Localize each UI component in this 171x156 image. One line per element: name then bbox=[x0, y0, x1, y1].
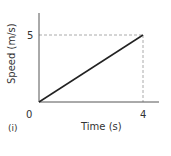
x-tick-label: 4 bbox=[140, 110, 146, 120]
x-axis-label: Time (s) bbox=[81, 122, 122, 132]
speed-line bbox=[39, 35, 143, 102]
panel-label: (i) bbox=[8, 124, 18, 133]
origin-label: 0 bbox=[26, 110, 32, 120]
y-tick-label: 5 bbox=[27, 31, 33, 41]
y-axis-label: Speed (m/s) bbox=[6, 23, 17, 84]
speed-time-graph bbox=[0, 0, 171, 156]
